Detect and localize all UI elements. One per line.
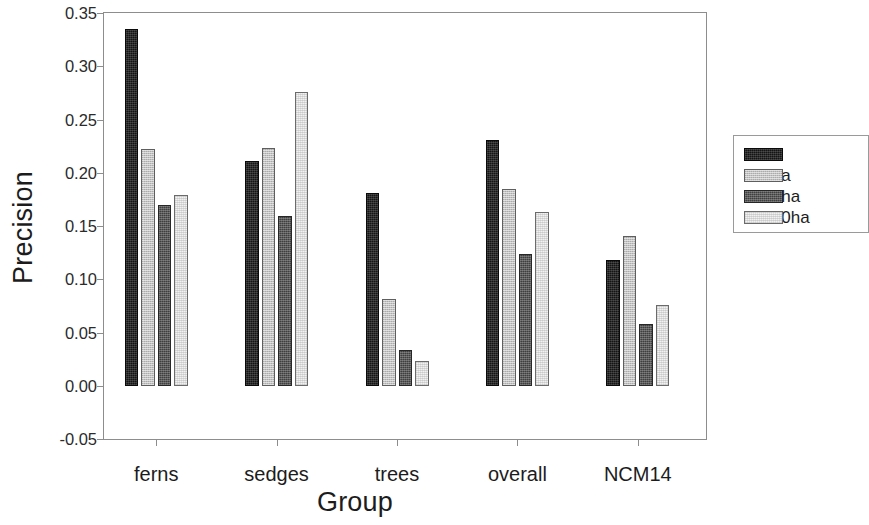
bar (399, 350, 413, 386)
y-axis-tick-label: 0.15 (47, 217, 97, 236)
x-axis-tick-mark (517, 439, 518, 446)
bar (278, 216, 292, 385)
bar (502, 189, 516, 386)
bar (174, 195, 188, 386)
x-axis-tick-label: overall (447, 463, 587, 486)
y-axis-tick-label: 0.05 (47, 323, 97, 342)
bar (535, 212, 549, 386)
y-axis-tick-mark (97, 439, 104, 440)
y-axis-tick-mark (97, 173, 104, 174)
bar (519, 254, 533, 386)
bar (141, 149, 155, 385)
y-axis-tick-mark (97, 226, 104, 227)
x-axis-tick-label: NCM14 (568, 463, 708, 486)
bar (415, 361, 429, 385)
bar (656, 305, 670, 386)
bar (125, 29, 139, 386)
plot-area: 0.350.300.250.200.150.100.050.00-0.05fer… (103, 12, 707, 440)
y-axis-tick-label: 0.20 (47, 163, 97, 182)
y-axis-tick-mark (97, 333, 104, 334)
y-axis-tick-label: 0.10 (47, 270, 97, 289)
legend: 4ha25ha240ha1040ha (733, 135, 869, 233)
x-axis-tick-label: ferns (86, 463, 226, 486)
legend-swatch (744, 169, 783, 182)
y-axis-title: Precision (8, 128, 39, 328)
y-axis-tick-label: 0.35 (47, 4, 97, 23)
x-axis-tick-mark (156, 439, 157, 446)
bar (486, 140, 500, 386)
y-axis-tick-label: 0.30 (47, 57, 97, 76)
legend-swatch (744, 211, 783, 224)
y-axis-tick-mark (97, 386, 104, 387)
x-axis-tick-mark (277, 439, 278, 446)
legend-swatch (744, 148, 783, 161)
y-axis-tick-mark (97, 279, 104, 280)
x-axis-title: Group (0, 487, 710, 518)
x-axis-tick-label: sedges (207, 463, 347, 486)
bar (623, 236, 637, 386)
x-axis-tick-label: trees (327, 463, 467, 486)
bar (382, 299, 396, 385)
legend-item: 1040ha (744, 207, 868, 227)
bar (262, 148, 276, 385)
plot-inner: 0.350.300.250.200.150.100.050.00-0.05fer… (104, 13, 706, 439)
legend-item: 240ha (744, 186, 868, 206)
y-axis-tick-label: 0.25 (47, 110, 97, 129)
y-axis-tick-mark (97, 13, 104, 14)
y-axis-tick-label: -0.05 (47, 430, 97, 449)
legend-item: 25ha (744, 165, 868, 185)
legend-item: 4ha (744, 144, 868, 164)
bar (245, 161, 259, 386)
bar (295, 92, 309, 386)
bar (639, 324, 653, 386)
x-axis-tick-mark (397, 439, 398, 446)
bar (366, 193, 380, 386)
y-axis-tick-label: 0.00 (47, 376, 97, 395)
bar (606, 260, 620, 386)
y-axis-tick-mark (97, 66, 104, 67)
x-axis-tick-mark (638, 439, 639, 446)
legend-swatch (744, 190, 783, 203)
bar (158, 205, 172, 386)
y-axis-tick-mark (97, 120, 104, 121)
